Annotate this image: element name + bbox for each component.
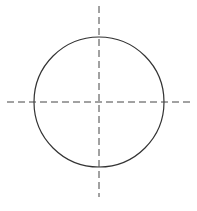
circle-diagram bbox=[0, 0, 197, 211]
